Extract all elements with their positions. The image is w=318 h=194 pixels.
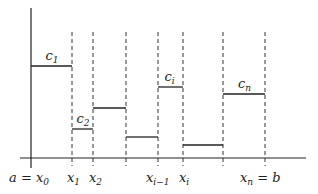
step-label: cn [238,76,251,93]
step-label: ci [165,69,175,86]
step-label: c1 [46,48,59,65]
step-labels: c1c2cicn [46,48,252,128]
x-tick-label: xi [179,170,189,187]
step-function-diagram: c1c2cicn a = x0x1x2xi−1xixn = b [0,0,318,194]
x-tick-label: xn = b [240,170,281,187]
step-label: c2 [77,111,90,128]
x-tick-label: x2 [89,170,102,187]
x-tick-label: a = x0 [9,170,49,187]
step-segments [31,66,265,145]
partition-dashed-lines [72,32,265,166]
x-axis-labels: a = x0x1x2xi−1xixn = b [9,170,281,187]
x-tick-label: xi−1 [146,170,170,187]
x-tick-label: x1 [67,170,80,187]
